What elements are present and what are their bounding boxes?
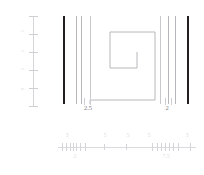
- bottom-axis-tick: [66, 143, 67, 151]
- panel-x-label-right: 2: [162, 104, 172, 111]
- bottom-axis-tick: [178, 143, 179, 151]
- bottom-axis-line: [58, 147, 196, 148]
- bottom-axis-label-above: 5: [123, 132, 133, 138]
- bottom-axis-tick: [169, 143, 170, 151]
- bottom-axis-tick: [161, 143, 162, 151]
- bottom-axis-tick: [126, 144, 127, 150]
- bottom-axis-label-above: 3: [182, 132, 192, 138]
- bottom-axis-tick: [62, 143, 63, 151]
- plot-figure: 5 5 5 3 2.5 2: [0, 0, 204, 175]
- bottom-axis-tick: [104, 144, 105, 150]
- bottom-axis-tick: [173, 143, 174, 151]
- main-plot-panel: 5 5 5 3 2.5 2: [0, 0, 204, 120]
- bottom-axis-label-above: 5: [100, 132, 110, 138]
- panel-x-label-left: 2.5: [80, 104, 96, 111]
- bottom-axis-tick: [85, 143, 86, 151]
- bottom-axis-tick: [190, 143, 191, 151]
- bottom-axis-tick: [157, 143, 158, 151]
- bottom-axis-tick: [165, 143, 166, 151]
- bottom-axis-tick: [70, 143, 71, 151]
- bottom-axis-tick: [152, 143, 153, 151]
- bottom-axis-label-below: 2: [70, 153, 80, 159]
- bottom-axis-tick: [76, 143, 77, 151]
- bottom-axis-panel: 3 5 5 5 3 2 7.5: [0, 120, 204, 175]
- bottom-axis-tick: [80, 143, 81, 151]
- bottom-axis-label-below: 7.5: [158, 153, 174, 159]
- bottom-axis-label-above: 3: [62, 132, 72, 138]
- bottom-axis-tick: [73, 143, 74, 151]
- spiral-path: [0, 0, 204, 120]
- bottom-axis-label-above: 5: [144, 132, 154, 138]
